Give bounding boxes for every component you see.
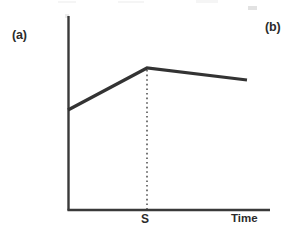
line-chart-plot [0, 0, 297, 235]
x-axis-label: Time [231, 213, 258, 225]
series-response-line [68, 68, 247, 110]
axes-group [68, 16, 271, 211]
panel-label-a: (a) [12, 29, 27, 42]
x-axis-tick-label-s: S [141, 213, 149, 225]
data-series-group [68, 68, 247, 110]
figure-container: (a) (b) S Time [0, 0, 297, 235]
panel-label-b: (b) [265, 21, 280, 34]
